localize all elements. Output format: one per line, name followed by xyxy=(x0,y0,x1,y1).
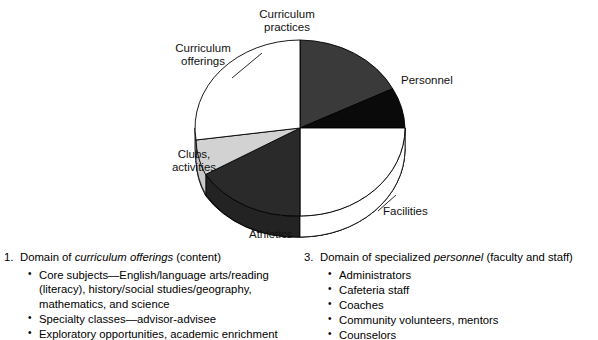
list-item: Administrators xyxy=(328,268,598,283)
list-item: Coaches xyxy=(328,298,598,313)
list-item: Core subjects—English/language arts/read… xyxy=(28,268,296,312)
domain-list-right: 3. Domain of specialized personnel (facu… xyxy=(304,250,598,340)
pie-label-curriculum-offerings: Curriculum offerings xyxy=(175,42,231,68)
heading-italic: curriculum offerings xyxy=(75,251,174,263)
pie-label-curriculum-practices: Curriculum practices xyxy=(259,8,315,34)
pie-label-line1: Curriculum xyxy=(259,8,315,21)
list-item: Cafeteria staff xyxy=(328,283,598,298)
bullet-list: Core subjects—English/language arts/read… xyxy=(4,268,296,340)
list-item: Community volunteers, mentors xyxy=(328,313,598,328)
pie-label-facilities: Facilities xyxy=(383,205,428,218)
figure-page: Curriculum practices Curriculum offering… xyxy=(0,0,598,340)
heading-pre: Domain of specialized xyxy=(320,251,434,263)
pie-label-athletics: Athletics xyxy=(249,228,292,241)
list-heading-text: Domain of curriculum offerings (content) xyxy=(20,250,296,265)
pie-chart: Curriculum practices Curriculum offering… xyxy=(0,0,598,250)
list-item: Counselors xyxy=(328,328,598,340)
domain-list-left: 1. Domain of curriculum offerings (conte… xyxy=(4,250,296,340)
pie-label-line1: Clubs, xyxy=(172,148,216,161)
pie-chart-svg xyxy=(0,0,598,250)
list-heading: 1. Domain of curriculum offerings (conte… xyxy=(4,250,296,265)
list-heading-text: Domain of specialized personnel (faculty… xyxy=(320,250,598,265)
heading-post: (content) xyxy=(173,251,221,263)
pie-label-line2: offerings xyxy=(175,55,231,68)
list-item: Specialty classes—advisor-advisee xyxy=(28,312,296,327)
list-heading: 3. Domain of specialized personnel (facu… xyxy=(304,250,598,265)
bullet-list: Administrators Cafeteria staff Coaches C… xyxy=(304,268,598,340)
pie-label-line2: activities xyxy=(172,161,216,174)
list-number: 1. xyxy=(4,250,20,265)
pie-label-personnel: Personnel xyxy=(401,74,453,87)
pie-label-line2: practices xyxy=(259,21,315,34)
slice-facilities xyxy=(300,128,405,216)
list-number: 3. xyxy=(304,250,320,265)
pie-label-clubs-activities: Clubs, activities xyxy=(172,148,216,174)
heading-pre: Domain of xyxy=(20,251,75,263)
list-item: Exploratory opportunities, academic enri… xyxy=(28,327,296,340)
domain-lists: 1. Domain of curriculum offerings (conte… xyxy=(0,250,598,340)
pie-label-line1: Curriculum xyxy=(175,42,231,55)
heading-italic: personnel xyxy=(434,251,484,263)
heading-post: (faculty and staff) xyxy=(483,251,573,263)
